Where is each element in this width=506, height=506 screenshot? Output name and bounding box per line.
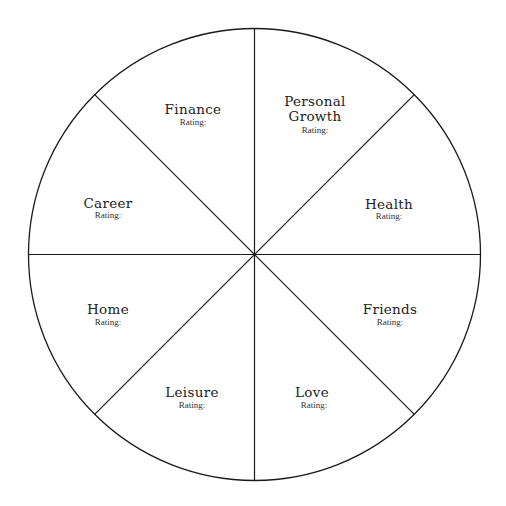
segment-rating-label: Rating: — [95, 210, 122, 220]
segment-title: Leisure — [165, 384, 218, 400]
segment-love[interactable]: Love Rating: — [295, 384, 329, 410]
segment-title: Friends — [363, 301, 418, 317]
segment-title: Health — [365, 196, 413, 212]
segment-title-line-2: Growth — [289, 108, 342, 124]
life-wheel-diagram: Finance Rating: Personal Growth Rating: … — [0, 0, 506, 506]
segment-rating-label: Rating: — [180, 117, 207, 127]
segment-rating-label: Rating: — [376, 211, 403, 221]
segment-rating-label: Rating: — [179, 400, 206, 410]
segment-title: Home — [87, 301, 129, 317]
segment-title: Love — [295, 384, 329, 400]
segment-rating-label: Rating: — [95, 317, 122, 327]
segment-rating-label: Rating: — [377, 317, 404, 327]
segment-rating-label: Rating: — [302, 125, 329, 135]
segment-title: Personal — [284, 93, 345, 109]
segment-rating-label: Rating: — [301, 400, 328, 410]
segment-title: Career — [83, 195, 132, 211]
segment-title: Finance — [165, 101, 222, 117]
